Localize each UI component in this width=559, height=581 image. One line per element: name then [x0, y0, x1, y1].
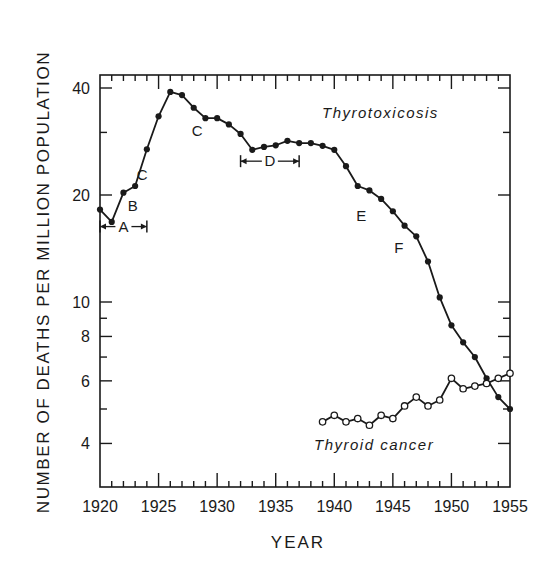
plot-border [100, 75, 510, 487]
y-tick-label: 40 [72, 80, 90, 97]
x-tick-label: 1930 [199, 498, 235, 515]
data-point-thyrotoxicosis [249, 147, 255, 153]
data-point-thyroid-cancer [495, 375, 501, 381]
data-point-thyrotoxicosis [284, 138, 290, 144]
data-point-thyrotoxicosis [448, 322, 454, 328]
data-point-thyrotoxicosis [495, 394, 501, 400]
data-point-thyrotoxicosis [144, 146, 150, 152]
x-tick-label: 1940 [316, 498, 352, 515]
annotation-label: D [264, 152, 275, 169]
y-axis-title: NUMBER OF DEATHS PER MILLION POPULATION [34, 51, 53, 513]
data-point-thyroid-cancer [425, 403, 431, 409]
series-lines [100, 92, 510, 425]
annotation-label: A [118, 218, 128, 235]
x-tick-label: 1945 [375, 498, 411, 515]
data-point-thyrotoxicosis [237, 131, 243, 137]
data-point-thyrotoxicosis [401, 223, 407, 229]
data-point-thyrotoxicosis [202, 115, 208, 121]
data-point-thyrotoxicosis [366, 187, 372, 193]
x-tick-label: 1925 [141, 498, 177, 515]
data-point-thyrotoxicosis [261, 144, 267, 150]
data-point-thyroid-cancer [390, 415, 396, 421]
data-point-thyrotoxicosis [507, 406, 513, 412]
data-point-thyrotoxicosis [343, 163, 349, 169]
plot-frame [100, 75, 510, 487]
data-point-thyroid-cancer [413, 394, 419, 400]
data-point-thyrotoxicosis [390, 208, 396, 214]
x-tick-label: 1950 [434, 498, 470, 515]
data-point-thyroid-cancer [343, 419, 349, 425]
y-tick-label: 20 [72, 187, 90, 204]
data-point-thyroid-cancer [448, 375, 454, 381]
data-point-thyrotoxicosis [413, 233, 419, 239]
x-tick-label: 1955 [492, 498, 528, 515]
arrowhead-right-icon [141, 224, 147, 230]
data-point-thyrotoxicosis [97, 206, 103, 212]
y-tick-label: 10 [72, 294, 90, 311]
annotation-label-f: F [394, 239, 403, 256]
interval-marker-d: D [241, 152, 300, 169]
y-tick-label: 8 [81, 328, 90, 345]
data-point-thyrotoxicosis [155, 113, 161, 119]
x-axis-title: YEAR [271, 533, 325, 552]
x-tick-label: 1920 [82, 498, 118, 515]
data-point-thyrotoxicosis [460, 339, 466, 345]
y-tick-label: 6 [81, 373, 90, 390]
annotation-label-e: E [356, 207, 366, 224]
data-point-thyrotoxicosis [273, 142, 279, 148]
annotation-label-b: B [128, 197, 138, 214]
series-label-thyroid-cancer: Thyroid cancer [314, 436, 434, 453]
data-point-thyroid-cancer [437, 397, 443, 403]
data-point-thyroid-cancer [507, 370, 513, 376]
arrowhead-left-icon [241, 158, 247, 164]
data-point-thyroid-cancer [378, 412, 384, 418]
data-point-thyroid-cancer [331, 412, 337, 418]
arrowhead-left-icon [100, 224, 106, 230]
data-point-thyrotoxicosis [120, 190, 126, 196]
data-point-thyroid-cancer [319, 419, 325, 425]
annotation-label-c: C [192, 122, 203, 139]
series-label-thyrotoxicosis: Thyrotoxicosis [322, 104, 439, 121]
arrowhead-right-icon [293, 158, 299, 164]
chart: 1920192519301935194019451950195546810204… [0, 0, 559, 581]
data-point-thyrotoxicosis [296, 140, 302, 146]
data-point-thyrotoxicosis [319, 143, 325, 149]
data-point-thyroid-cancer [483, 380, 489, 386]
data-point-thyrotoxicosis [355, 183, 361, 189]
series-line-thyrotoxicosis [100, 92, 510, 409]
data-point-thyrotoxicosis [437, 294, 443, 300]
data-point-thyroid-cancer [472, 383, 478, 389]
data-point-thyrotoxicosis [167, 89, 173, 95]
data-point-thyroid-cancer [355, 415, 361, 421]
series-markers [97, 89, 513, 429]
x-tick-label: 1935 [258, 498, 294, 515]
interval-marker-a: A [100, 218, 147, 235]
data-point-thyroid-cancer [460, 386, 466, 392]
data-point-thyrotoxicosis [214, 115, 220, 121]
data-point-thyrotoxicosis [308, 140, 314, 146]
annotations: ABCCDEF [100, 122, 403, 255]
data-point-thyrotoxicosis [109, 219, 115, 225]
data-point-thyrotoxicosis [378, 196, 384, 202]
data-point-thyrotoxicosis [331, 147, 337, 153]
annotation-label-c: C [137, 166, 148, 183]
data-point-thyrotoxicosis [226, 121, 232, 127]
data-point-thyrotoxicosis [191, 105, 197, 111]
data-point-thyrotoxicosis [179, 92, 185, 98]
data-point-thyrotoxicosis [472, 354, 478, 360]
axis-ticks [100, 75, 510, 487]
data-point-thyrotoxicosis [132, 183, 138, 189]
data-point-thyroid-cancer [366, 422, 372, 428]
data-point-thyroid-cancer [401, 403, 407, 409]
data-point-thyrotoxicosis [425, 258, 431, 264]
y-tick-label: 4 [81, 435, 90, 452]
